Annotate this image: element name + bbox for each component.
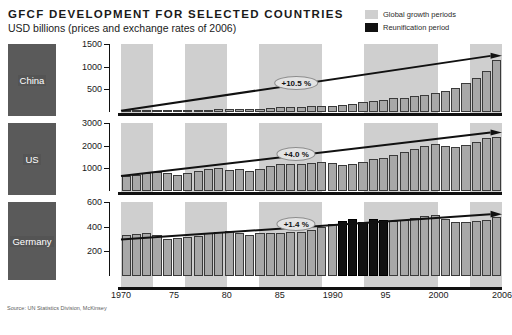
y-tick-mark (104, 202, 110, 203)
y-axis-spine (109, 123, 110, 191)
legend-item-growth: Global growth periods (365, 9, 505, 20)
panel-china: China 50010001500 +10.5 % (0, 44, 511, 116)
x-axis: 197075808519909520002006 (121, 290, 502, 304)
plot-us: +4.0 % (121, 123, 502, 195)
country-label: Germany (10, 236, 53, 247)
y-tick-label: 1000 (82, 62, 102, 72)
y-tick-label: 1000 (82, 163, 102, 173)
plot-germany: +1.4 % (121, 202, 502, 290)
page-title: GFCF DEVELOPMENT FOR SELECTED COUNTRIES (8, 8, 344, 20)
y-tick-mark (104, 44, 110, 45)
y-tick-label: 200 (87, 246, 102, 256)
page-subtitle: USD billions (prices and exchange rates … (8, 22, 236, 34)
plot-china: +10.5 % (121, 44, 502, 116)
y-tick-mark (104, 146, 110, 147)
y-tick-mark (104, 227, 110, 228)
trend-arrow-us (121, 123, 502, 195)
plot-inner-us: +4.0 % (121, 123, 502, 195)
y-axis-china: 50010001500 (60, 44, 118, 116)
trend-arrow-germany (121, 202, 502, 290)
country-box-germany: Germany (8, 202, 56, 280)
x-tick-label: 1970 (111, 290, 131, 300)
legend-label-growth: Global growth periods (383, 10, 456, 19)
legend-label-reunification: Reunification period (383, 23, 449, 32)
y-axis-germany: 200400600 (60, 202, 118, 290)
panel-us: US 100020003000 +4.0 % (0, 123, 511, 195)
country-label: China (18, 75, 47, 86)
y-axis-spine (109, 202, 110, 276)
y-tick-label: 2000 (82, 141, 102, 151)
y-tick-mark (104, 67, 110, 68)
x-tick-label: 75 (169, 290, 179, 300)
y-tick-mark (104, 123, 110, 124)
y-tick-mark (104, 168, 110, 169)
x-tick-label: 2006 (492, 290, 512, 300)
growth-rate-badge: +4.0 % (277, 147, 316, 161)
y-axis-spine (109, 44, 110, 112)
country-label: US (23, 154, 40, 165)
country-box-us: US (8, 123, 56, 195)
x-tick-label: 95 (381, 290, 391, 300)
panel-germany: Germany 200400600 +1.4 % (0, 202, 511, 290)
growth-rate-badge: +1.4 % (277, 217, 316, 231)
plot-inner-china: +10.5 % (121, 44, 502, 116)
y-tick-label: 1500 (82, 39, 102, 49)
y-tick-mark (104, 251, 110, 252)
y-tick-mark (104, 89, 110, 90)
source-note: Source: UN Statistics Division, McKinsey (7, 305, 107, 311)
y-tick-label: 3000 (82, 118, 102, 128)
growth-rate-badge: +10.5 % (274, 76, 318, 90)
x-tick-label: 1990 (323, 290, 343, 300)
x-tick-label: 2000 (428, 290, 448, 300)
y-tick-label: 400 (87, 222, 102, 232)
square-swatch-icon (365, 23, 378, 32)
legend: Global growth periods Reunification peri… (365, 9, 505, 35)
y-tick-label: 500 (87, 84, 102, 94)
x-tick-label: 85 (275, 290, 285, 300)
x-tick-label: 80 (222, 290, 232, 300)
y-tick-label: 600 (87, 197, 102, 207)
plot-inner-germany: +1.4 % (121, 202, 502, 290)
legend-item-reunification: Reunification period (365, 22, 505, 33)
y-axis-us: 100020003000 (60, 123, 118, 195)
country-box-china: China (8, 44, 56, 116)
square-swatch-icon (365, 10, 378, 19)
